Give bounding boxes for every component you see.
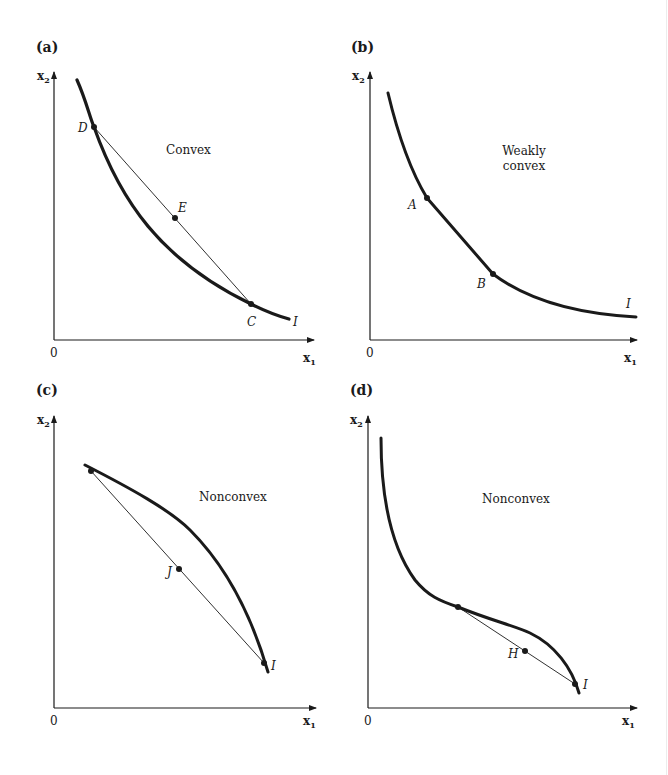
point-j (176, 566, 182, 572)
chord-endpoint-bottom (572, 681, 578, 687)
x-axis-label: x1 (303, 351, 316, 367)
point-e-label: E (177, 201, 187, 215)
x-axis-label: x1 (303, 714, 316, 730)
region-label-convex: convex (503, 159, 546, 173)
panel-b-label: (b) (351, 39, 374, 55)
origin-label: 0 (366, 346, 374, 360)
y-axis-label: x2 (350, 413, 363, 429)
point-b-label: B (476, 277, 486, 291)
chord-line (458, 607, 575, 684)
point-a-label: A (407, 198, 417, 212)
panel-a: (a) x2 x1 0 D E C I Convex (36, 39, 316, 367)
point-d-label: D (77, 121, 88, 135)
indifference-curve (381, 438, 579, 693)
origin-label: 0 (50, 346, 58, 360)
curve-i-label: I (625, 297, 631, 311)
panel-d: (d) x2 x1 0 H I Nonconvex (350, 382, 637, 730)
x-axis-label: x1 (624, 351, 637, 367)
curve-i-label: I (582, 678, 588, 692)
point-c-label: C (247, 315, 256, 329)
region-label-nonconvex: Nonconvex (199, 490, 267, 504)
origin-label: 0 (50, 714, 58, 728)
y-axis-label: x2 (37, 413, 50, 429)
panel-a-label: (a) (36, 39, 58, 55)
point-j-label: J (164, 565, 173, 579)
point-b (490, 271, 496, 277)
panel-d-label: (d) (350, 382, 373, 398)
chord-endpoint-bottom (261, 660, 267, 666)
origin-label: 0 (364, 714, 372, 728)
chord-endpoint-top (88, 468, 94, 474)
point-c (248, 301, 254, 307)
curve-i-label: I (292, 315, 298, 329)
chord-endpoint-top (455, 604, 461, 610)
point-h (522, 648, 528, 654)
point-e (172, 215, 178, 221)
point-d (91, 124, 97, 130)
indifference-curve (388, 93, 636, 317)
y-axis-label: x2 (352, 69, 365, 85)
y-axis-label: x2 (37, 69, 50, 85)
point-a (424, 195, 430, 201)
panel-c: (c) x2 x1 0 J I Nonconvex (36, 382, 316, 730)
x-axis-label: x1 (622, 714, 635, 730)
point-h-label: H (507, 647, 519, 661)
curve-i-label: I (270, 659, 276, 673)
region-label-nonconvex: Nonconvex (482, 492, 550, 506)
indifference-curve-figure: (a) x2 x1 0 D E C I Convex (b) x2 x1 0 A… (0, 0, 668, 775)
panel-b: (b) x2 x1 0 A B I Weakly convex (351, 39, 637, 367)
region-label-weakly: Weakly (502, 144, 546, 158)
region-label-convex: Convex (166, 143, 211, 157)
panel-c-label: (c) (36, 382, 58, 398)
page-edge-line (666, 0, 667, 775)
indifference-curve (77, 80, 289, 319)
